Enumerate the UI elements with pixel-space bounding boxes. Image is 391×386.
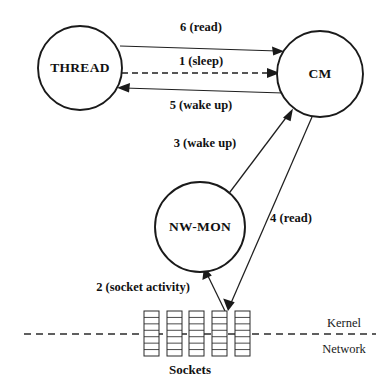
node-cm-label: CM <box>308 66 331 81</box>
node-thread[interactable]: THREAD <box>38 26 122 110</box>
edge-5-wakeup-label: 5 (wake up) <box>170 98 233 112</box>
socket-stack[interactable] <box>212 311 227 356</box>
diagram-canvas: 6 (read) 1 (sleep) 5 (wake up) 3 (wake u… <box>0 0 391 386</box>
edge-3-wakeup-line <box>227 115 288 196</box>
edge-3-wakeup-label: 3 (wake up) <box>174 136 237 150</box>
socket-stack[interactable] <box>144 311 159 356</box>
edge-6-read-label: 6 (read) <box>180 20 222 34</box>
edge-1-sleep: 1 (sleep) <box>122 54 280 78</box>
edge-4-read-line <box>231 117 312 303</box>
edge-5-wakeup-line <box>124 88 283 93</box>
node-thread-label: THREAD <box>50 60 110 75</box>
edge-2-socket-activity: 2 (socket activity) <box>96 267 225 311</box>
edge-5-wakeup: 5 (wake up) <box>117 83 283 112</box>
kernel-label: Kernel <box>327 316 362 330</box>
sockets-caption: Sockets <box>169 362 211 377</box>
edge-2-socket-activity-label: 2 (socket activity) <box>96 280 190 294</box>
edge-6-read: 6 (read) <box>120 20 284 56</box>
edge-4-read-label: 4 (read) <box>270 211 312 225</box>
node-nwmon[interactable]: NW-MON <box>155 182 245 272</box>
edge-6-read-line <box>120 46 278 51</box>
socket-stack[interactable] <box>167 311 182 356</box>
socket-stack[interactable] <box>235 311 250 356</box>
diagram-root: 6 (read) 1 (sleep) 5 (wake up) 3 (wake u… <box>0 0 391 386</box>
edge-4-read-arrowhead <box>223 299 235 311</box>
node-cm[interactable]: CM <box>277 31 363 117</box>
socket-stack[interactable] <box>189 311 204 356</box>
node-nwmon-label: NW-MON <box>169 219 231 234</box>
edge-2-socket-activity-line <box>207 274 225 311</box>
network-label: Network <box>322 342 366 356</box>
edge-1-sleep-label: 1 (sleep) <box>179 54 223 68</box>
